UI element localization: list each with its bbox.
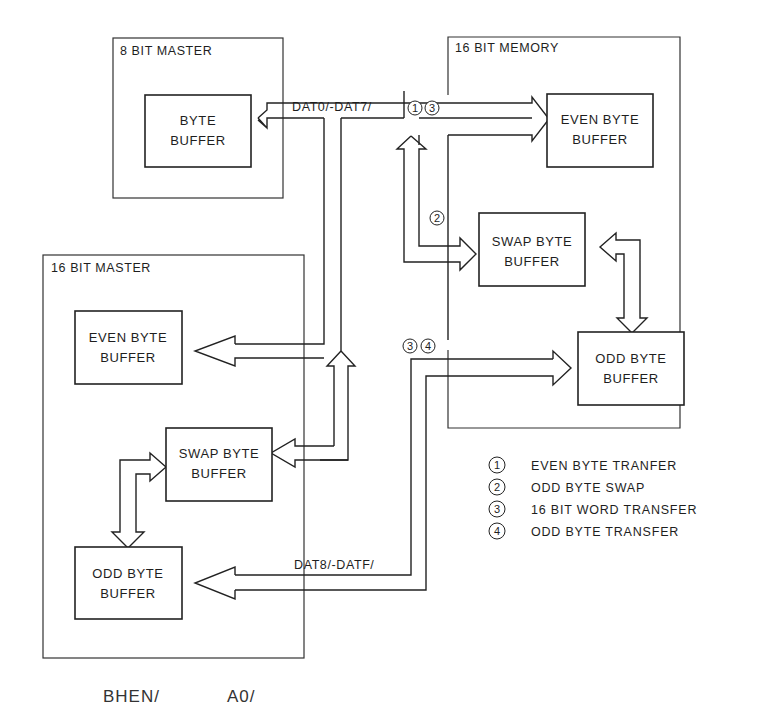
container-title: 16 BIT MEMORY [455,41,559,55]
svg-text:SWAP BYTE: SWAP BYTE [492,234,573,249]
high-bus-markers: 3 4 [403,339,435,353]
svg-text:16 BIT WORD TRANSFER: 16 BIT WORD TRANSFER [531,503,697,517]
container-title: 8 BIT MASTER [120,44,212,58]
svg-text:4: 4 [494,525,500,537]
svg-text:ODD BYTE: ODD BYTE [595,351,666,366]
low-bus-label: DAT0/-DAT7/ 1 3 [292,100,439,115]
svg-text:2: 2 [494,481,500,493]
block-memory-even-byte-buffer: EVEN BYTE BUFFER [547,94,653,167]
svg-text:ODD BYTE SWAP: ODD BYTE SWAP [531,481,645,495]
legend-item: 4 ODD BYTE TRANSFER [489,523,679,539]
block-memory-swap-byte-buffer: SWAP BYTE BUFFER [479,213,585,286]
svg-text:1: 1 [494,459,500,471]
svg-text:DAT0/-DAT7/: DAT0/-DAT7/ [292,100,372,114]
svg-text:SWAP BYTE: SWAP BYTE [179,446,260,461]
block-8bit-byte-buffer: BYTE BUFFER [145,95,251,167]
svg-text:BUFFER: BUFFER [504,254,560,269]
svg-text:EVEN BYTE TRANFER: EVEN BYTE TRANFER [531,459,677,473]
svg-text:EVEN BYTE: EVEN BYTE [89,330,167,345]
svg-text:BUFFER: BUFFER [191,466,247,481]
block-memory-odd-byte-buffer: ODD BYTE BUFFER [578,332,684,405]
svg-text:1: 1 [412,102,418,114]
svg-text:BYTE: BYTE [180,113,216,128]
svg-text:4: 4 [425,340,431,352]
signal-a0: A0/ [227,687,256,706]
legend-item: 1 EVEN BYTE TRANFER [489,457,677,473]
swap-marker: 2 [430,211,444,225]
svg-text:3: 3 [494,503,500,515]
svg-text:3: 3 [429,102,435,114]
svg-text:BUFFER: BUFFER [572,132,628,147]
legend-item: 3 16 BIT WORD TRANSFER [489,501,697,517]
block-master16-even-byte-buffer: EVEN BYTE BUFFER [75,311,182,384]
svg-text:EVEN BYTE: EVEN BYTE [561,112,639,127]
block-master16-swap-byte-buffer: SWAP BYTE BUFFER [166,428,272,501]
svg-text:BUFFER: BUFFER [603,371,659,386]
svg-text:BUFFER: BUFFER [100,350,156,365]
svg-text:BUFFER: BUFFER [170,133,226,148]
master16-swap-odd-link [112,453,166,548]
svg-text:ODD BYTE TRANSFER: ODD BYTE TRANSFER [531,525,679,539]
svg-text:2: 2 [434,212,440,224]
block-master16-odd-byte-buffer: ODD BYTE BUFFER [75,547,182,619]
memory-swap-odd-link [600,233,647,333]
svg-text:BUFFER: BUFFER [100,586,156,601]
container-title: 16 BIT MASTER [51,261,151,275]
bus-transfer-diagram: 8 BIT MASTER 16 BIT MEMORY 16 BIT MASTER [0,0,768,717]
legend-item: 2 ODD BYTE SWAP [489,479,645,495]
signal-bhen: BHEN/ [103,687,160,706]
svg-text:ODD BYTE: ODD BYTE [92,566,163,581]
high-bus-label: DAT8/-DATF/ [294,558,374,572]
svg-text:3: 3 [407,340,413,352]
legend: 1 EVEN BYTE TRANFER 2 ODD BYTE SWAP 3 16… [489,457,697,539]
